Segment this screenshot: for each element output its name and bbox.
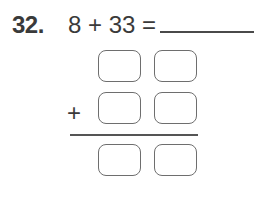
addend1-ones-box[interactable] xyxy=(154,50,197,82)
equation-text: 8 + 33 = xyxy=(68,11,156,39)
sum-divider-line xyxy=(70,134,198,136)
problem-number: 32. xyxy=(12,11,44,39)
addend1-tens-box[interactable] xyxy=(98,50,141,82)
sum-ones-box[interactable] xyxy=(154,144,197,176)
answer-blank-line[interactable] xyxy=(160,31,254,33)
sum-tens-box[interactable] xyxy=(98,144,141,176)
addend2-tens-box[interactable] xyxy=(98,92,141,124)
plus-sign: + xyxy=(67,99,81,127)
addend2-ones-box[interactable] xyxy=(154,92,197,124)
